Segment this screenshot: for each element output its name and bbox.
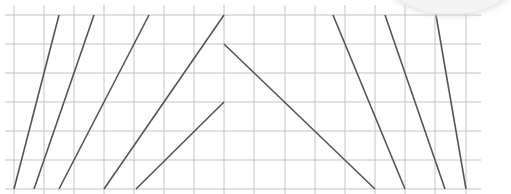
- line-segment: [136, 102, 224, 189]
- grid-lines: [5, 5, 481, 194]
- line-segment: [224, 44, 375, 189]
